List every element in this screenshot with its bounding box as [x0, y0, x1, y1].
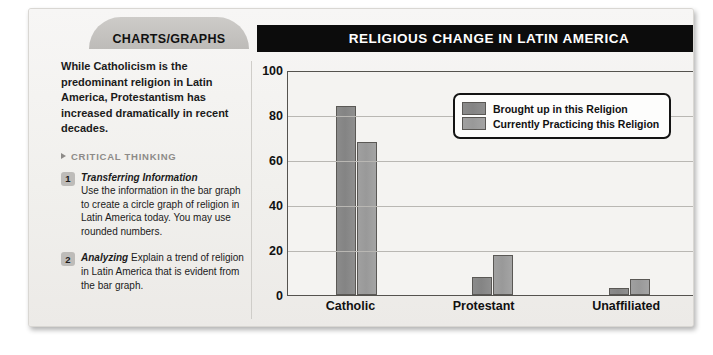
- legend-label: Currently Practicing this Religion: [493, 118, 659, 130]
- gridline: 40: [288, 206, 694, 207]
- x-axis-labels: CatholicProtestantUnaffiliated: [287, 299, 694, 313]
- bar: [609, 288, 629, 295]
- critical-thinking-label: CRITICAL THINKING: [71, 151, 176, 162]
- question-number: 2: [61, 252, 75, 266]
- bar-group: [336, 106, 377, 295]
- bar: [472, 277, 492, 295]
- section-tab-label: CHARTS/GRAPHS: [113, 32, 226, 46]
- question-body: Transferring Information Use the informa…: [81, 171, 247, 239]
- legend-label: Brought up in this Religion: [493, 103, 628, 115]
- y-axis-tick-label: 100: [262, 64, 283, 78]
- bar-chart: 020406080100 CatholicProtestantUnaffilia…: [257, 59, 694, 321]
- column-divider: [251, 61, 252, 319]
- bar-group: [609, 279, 650, 295]
- question-term: Transferring Information: [81, 172, 198, 183]
- chart-title-bar: RELIGIOUS CHANGE IN LATIN AMERICA: [257, 25, 694, 52]
- page-title: RELIGIOUS CHANGE IN LATIN AMERICA: [349, 31, 630, 46]
- intro-text: While Catholicism is the predominant rel…: [61, 59, 247, 137]
- legend-item: Currently Practicing this Religion: [462, 117, 659, 130]
- gridline: 100: [288, 71, 694, 72]
- y-axis-tick-label: 20: [269, 244, 283, 258]
- triangle-right-icon: [61, 153, 66, 159]
- question-item: 2 Analyzing Explain a trend of religion …: [61, 251, 247, 292]
- bar: [336, 106, 356, 295]
- question-number: 1: [61, 172, 75, 186]
- x-axis-tick-label: Catholic: [326, 299, 375, 313]
- question-body: Analyzing Explain a trend of religion in…: [81, 251, 247, 292]
- bar: [630, 279, 650, 295]
- y-axis-tick-label: 0: [276, 289, 283, 303]
- sidebar: While Catholicism is the predominant rel…: [61, 59, 247, 321]
- feature-card: RELIGIOUS CHANGE IN LATIN AMERICA CHARTS…: [28, 8, 694, 327]
- bar: [357, 142, 377, 295]
- x-axis-tick-label: Protestant: [453, 299, 515, 313]
- chart-legend: Brought up in this Religion Currently Pr…: [453, 93, 671, 139]
- y-axis-tick-label: 80: [269, 109, 283, 123]
- bar-group: [472, 255, 513, 296]
- gridline: 60: [288, 161, 694, 162]
- y-axis-tick-label: 60: [269, 154, 283, 168]
- x-axis-tick-label: Unaffiliated: [592, 299, 660, 313]
- question-text: Use the information in the bar graph to …: [81, 185, 241, 237]
- gridline: 20: [288, 251, 694, 252]
- legend-swatch-brought-up: [462, 102, 486, 115]
- section-tab[interactable]: CHARTS/GRAPHS: [89, 17, 249, 49]
- question-item: 1 Transferring Information Use the infor…: [61, 171, 247, 239]
- critical-thinking-header: CRITICAL THINKING: [61, 151, 247, 162]
- gridline: 0: [288, 296, 694, 297]
- question-term: Analyzing: [81, 252, 128, 263]
- legend-item: Brought up in this Religion: [462, 102, 659, 115]
- bar: [493, 255, 513, 296]
- legend-swatch-currently-practicing: [462, 117, 486, 130]
- y-axis-tick-label: 40: [269, 199, 283, 213]
- page-root: RELIGIOUS CHANGE IN LATIN AMERICA CHARTS…: [0, 0, 713, 355]
